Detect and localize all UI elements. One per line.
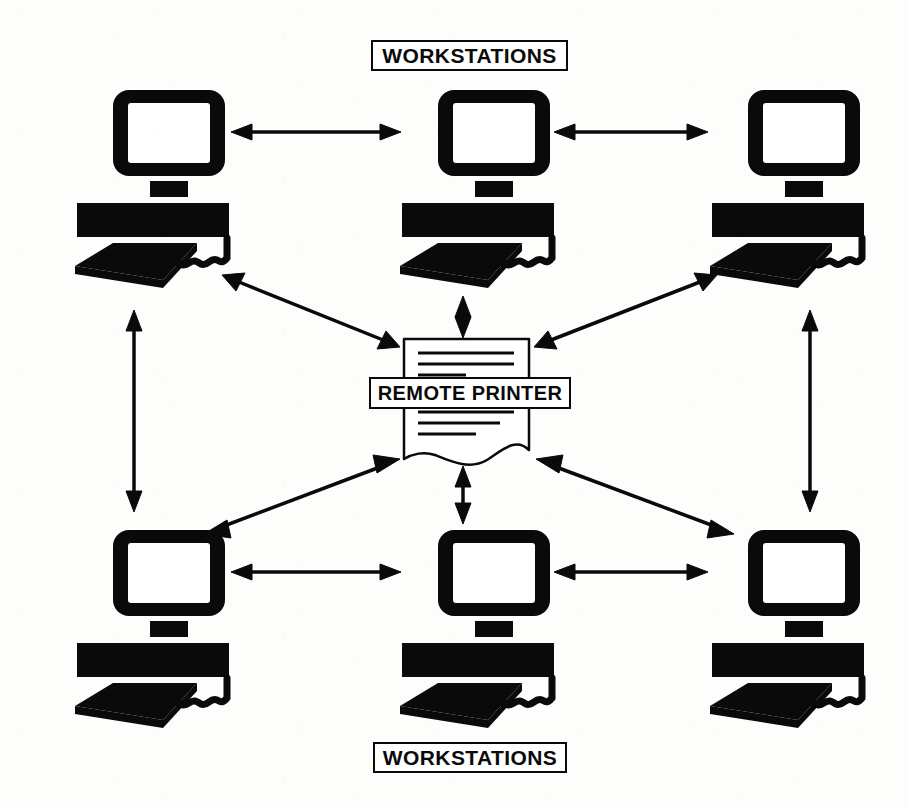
arrow-ws-top-right-to-remote-printer[interactable]	[534, 273, 717, 349]
arrow-ws-bottom-center-to-ws-bottom-right[interactable]	[554, 564, 708, 580]
arrow-ws-top-left-to-remote-printer[interactable]	[222, 273, 400, 349]
workstation-top-center[interactable]	[400, 90, 554, 288]
label-remote-printer: REMOTE PRINTER	[369, 377, 571, 409]
label-workstations-bottom: WORKSTATIONS	[373, 742, 567, 773]
arrow-ws-top-right-to-ws-bottom-right[interactable]	[802, 310, 818, 512]
network-diagram-page: WORKSTATIONS REMOTE PRINTER WORKSTATIONS	[0, 0, 907, 809]
arrow-ws-bottom-center-to-remote-printer[interactable]	[455, 466, 471, 524]
arrow-ws-bottom-left-to-remote-printer[interactable]	[204, 455, 400, 538]
workstation-bottom-right[interactable]	[710, 530, 864, 728]
arrow-ws-bottom-left-to-ws-bottom-center[interactable]	[231, 564, 401, 580]
arrow-ws-top-left-to-ws-top-center[interactable]	[231, 124, 401, 140]
label-workstations-top: WORKSTATIONS	[371, 40, 568, 71]
arrow-ws-top-center-to-ws-top-right[interactable]	[554, 124, 708, 140]
workstation-bottom-center[interactable]	[400, 530, 554, 728]
arrow-ws-top-center-to-remote-printer[interactable]	[455, 296, 471, 338]
workstation-bottom-left[interactable]	[75, 530, 229, 728]
workstation-top-right[interactable]	[710, 90, 864, 288]
arrow-ws-bottom-right-to-remote-printer[interactable]	[536, 455, 734, 538]
arrow-ws-top-left-to-ws-bottom-left[interactable]	[126, 310, 142, 512]
workstation-top-left[interactable]	[75, 90, 229, 288]
